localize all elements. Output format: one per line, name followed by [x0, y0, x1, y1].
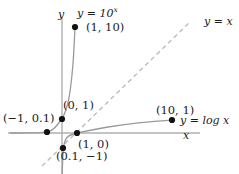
point-label-0-1: (0, 1)	[63, 100, 94, 112]
point-label-neg1-01: (−1, 0.1)	[3, 113, 55, 125]
data-point-10-1	[169, 117, 175, 123]
data-point-1-10	[72, 24, 78, 30]
exponential-function-label-base: y = 10	[77, 7, 113, 20]
x-axis-label: x	[183, 130, 189, 141]
data-point-neg1-01	[44, 129, 50, 135]
data-point-1-0	[74, 130, 80, 136]
exponential-function-label: y = 10x	[77, 8, 118, 19]
y-axis-label: y	[58, 9, 64, 20]
point-label-1-10: (1, 10)	[86, 22, 124, 34]
data-point-0-1	[59, 116, 65, 122]
math-figure-exponential-logarithm: y y = 10x y = x y = log x x (1, 10) (0, …	[0, 0, 239, 174]
identity-function-label: y = x	[204, 16, 233, 27]
point-label-01-neg1: (0.1, −1)	[56, 151, 108, 163]
exponential-function-label-exponent: x	[113, 5, 117, 14]
point-label-10-1: (10, 1)	[156, 105, 194, 117]
